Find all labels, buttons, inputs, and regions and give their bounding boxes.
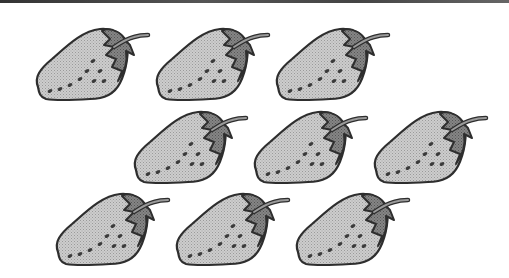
strawberry-icon <box>30 25 152 107</box>
strawberry-row3-3 <box>290 190 412 272</box>
strawberry-icon <box>170 190 292 272</box>
strawberry-icon <box>128 108 250 190</box>
strawberry-row2-2 <box>248 108 370 190</box>
strawberry-row2-3 <box>368 108 490 190</box>
strawberry-row3-2 <box>170 190 292 272</box>
strawberry-icon <box>270 25 392 107</box>
strawberry-row1-1 <box>30 25 152 107</box>
strawberry-icon <box>290 190 412 272</box>
top-border-bar <box>0 0 509 3</box>
strawberry-icon <box>150 25 272 107</box>
strawberry-icon <box>248 108 370 190</box>
strawberry-icon <box>50 190 172 272</box>
strawberry-row1-3 <box>270 25 392 107</box>
strawberry-row3-1 <box>50 190 172 272</box>
strawberry-icon <box>368 108 490 190</box>
strawberry-row1-2 <box>150 25 272 107</box>
strawberry-row2-1 <box>128 108 250 190</box>
